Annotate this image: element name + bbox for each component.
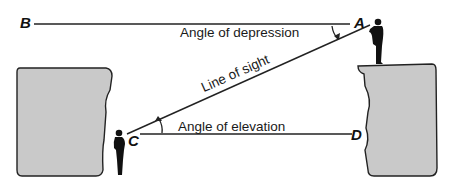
right-cliff (358, 64, 437, 176)
point-c-label: C (128, 132, 139, 149)
angle-of-elevation-label: Angle of elevation (178, 119, 285, 134)
point-a-label: A (354, 14, 365, 31)
angle-of-depression-label: Angle of depression (180, 25, 299, 40)
elevation-arc (159, 119, 162, 133)
person-c-icon (114, 130, 125, 175)
point-b-label: B (20, 14, 31, 31)
left-cliff (17, 68, 112, 176)
line-of-sight (127, 25, 370, 134)
point-d-label: D (351, 126, 362, 143)
person-a-icon (369, 19, 383, 64)
